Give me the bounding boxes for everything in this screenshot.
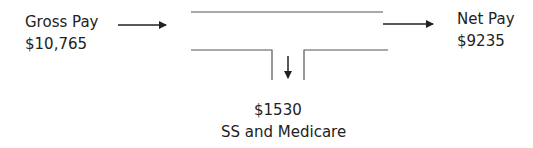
net-pay-value: $9235: [457, 30, 505, 52]
deduction-label: SS and Medicare: [221, 121, 346, 143]
net-pay-label: Net Pay: [457, 8, 515, 30]
pipe-bottom-left: [191, 50, 272, 80]
gross-pay-label: Gross Pay: [25, 11, 98, 33]
deduction-value: $1530: [254, 99, 302, 121]
gross-pay-value: $10,765: [25, 33, 87, 55]
pipe-bottom-right: [304, 50, 388, 80]
